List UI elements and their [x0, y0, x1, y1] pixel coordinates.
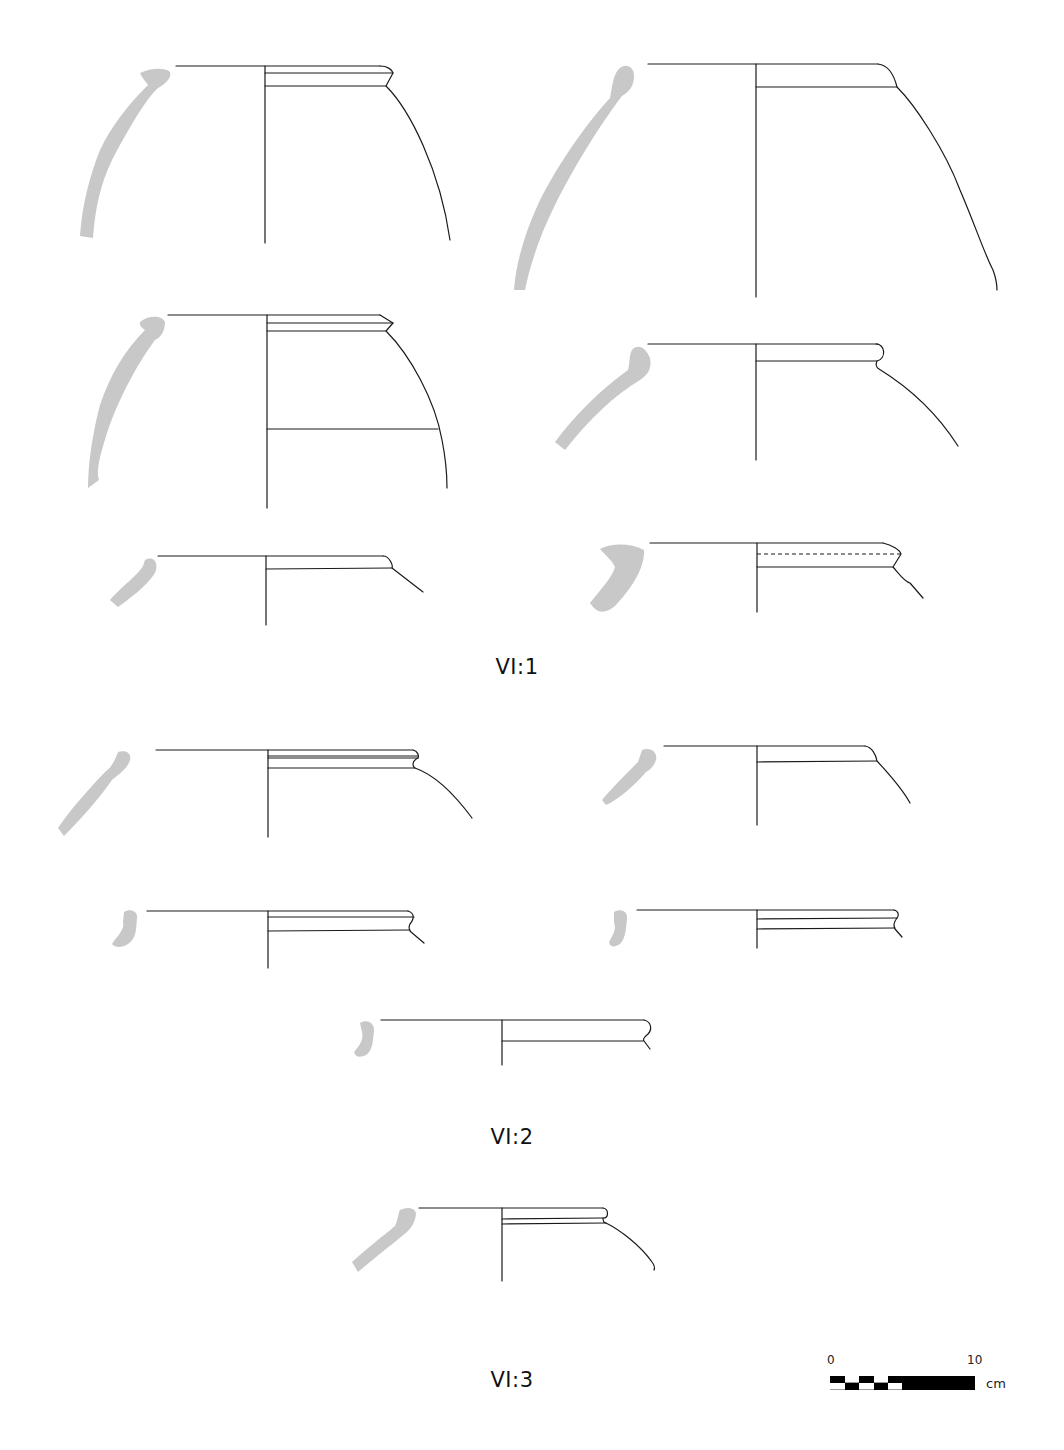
vessel-vi2-a [58, 750, 472, 837]
vessel-vi1-d [555, 344, 958, 460]
vessel-vi2-c [112, 910, 424, 968]
pottery-plate-drawing [0, 0, 1064, 1450]
vessel-vi1-e [110, 556, 423, 625]
vessel-vi1-a [80, 66, 450, 243]
vessel-vi1-b [514, 64, 997, 297]
scale-start-label: 0 [827, 1353, 835, 1367]
vessel-vi3-a [352, 1208, 655, 1281]
scale-end-label: 10 [967, 1353, 982, 1367]
vessel-vi2-b [602, 746, 910, 825]
group-label-vi2: VI:2 [491, 1125, 534, 1149]
group-label-vi1: VI:1 [496, 655, 539, 679]
vessel-vi1-c [88, 315, 447, 508]
group-label-vi3: VI:3 [491, 1368, 534, 1392]
scale-bar-graphic [830, 1376, 975, 1390]
scale-unit-label: cm [986, 1376, 1006, 1391]
vessel-vi1-f [590, 543, 923, 612]
vessel-vi2-d [609, 910, 902, 948]
vessel-vi2-e [354, 1020, 651, 1065]
